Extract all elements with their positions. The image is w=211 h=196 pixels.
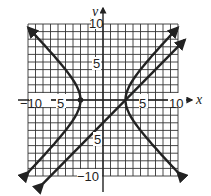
hyperbola-graph: −10 −5 5 5 10 x y 10 5 5 −10	[0, 0, 211, 196]
curves	[28, 28, 184, 184]
y-tick-pos5: 5	[93, 56, 100, 71]
y-tick-neg5: 5	[94, 132, 101, 147]
x-tick-neg5-digit: 5	[57, 96, 64, 111]
x-tick-pos5: 5	[139, 96, 146, 111]
x-tick-pos10: 10	[169, 96, 183, 111]
x-axis-label: x	[195, 92, 203, 107]
vertex-point	[78, 97, 84, 103]
x-tick-neg10: −10	[20, 96, 42, 111]
line-y-equals-x-minus-3	[43, 40, 185, 184]
y-tick-neg10: −10	[77, 169, 99, 184]
y-tick-pos10: 10	[89, 16, 103, 31]
